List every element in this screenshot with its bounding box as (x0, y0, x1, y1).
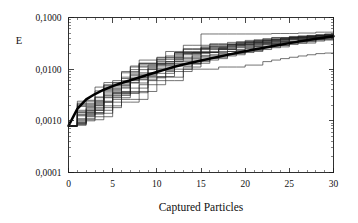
y-tick-label: 0,0010 (35, 116, 61, 126)
chart-canvas: 0510152025300,00010,00100,01000,1000ECap… (0, 0, 358, 223)
x-axis-title: Captured Particles (159, 201, 244, 214)
y-tick-label: 0,1000 (35, 13, 61, 23)
x-tick-label: 30 (329, 179, 339, 189)
figure-container: 0510152025300,00010,00100,01000,1000ECap… (0, 0, 358, 223)
x-tick-label: 5 (110, 179, 115, 189)
x-tick-label: 20 (240, 179, 250, 189)
x-tick-label: 0 (66, 179, 71, 189)
y-axis-title: E (16, 35, 22, 46)
x-tick-label: 15 (196, 179, 206, 189)
y-tick-label: 0,0001 (35, 168, 61, 178)
x-tick-label: 10 (152, 179, 162, 189)
y-tick-label: 0,0100 (35, 65, 61, 75)
run-curve (69, 31, 334, 126)
curves-layer (69, 31, 334, 126)
x-tick-label: 25 (285, 179, 295, 189)
